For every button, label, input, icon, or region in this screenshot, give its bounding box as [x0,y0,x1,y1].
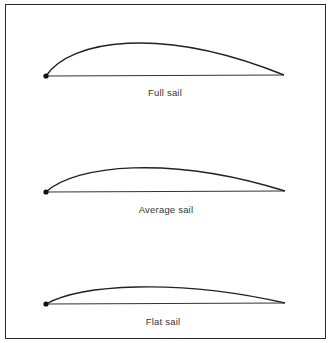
average-sail-chord [46,191,285,192]
full-sail-profile [43,43,284,79]
sail-profiles [0,0,335,343]
average-sail-curve [46,168,285,192]
flat-sail-label: Flat sail [103,316,223,327]
full-sail-mast-dot [43,73,48,78]
full-sail-chord [46,75,284,76]
average-sail-label: Average sail [106,204,226,215]
flat-sail-chord [46,303,285,304]
full-sail-curve [46,43,284,76]
flat-sail-profile [43,287,285,307]
flat-sail-mast-dot [43,301,48,306]
average-sail-profile [43,168,285,195]
full-sail-label: Full sail [105,87,225,98]
flat-sail-curve [46,287,285,304]
average-sail-mast-dot [43,189,48,194]
